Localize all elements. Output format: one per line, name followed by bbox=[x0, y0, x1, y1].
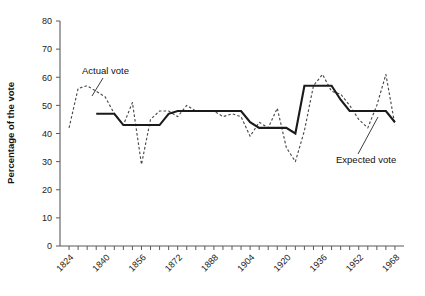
x-tick-label: 1856 bbox=[127, 252, 148, 273]
y-tick-marks bbox=[56, 21, 60, 246]
x-tick-label: 1840 bbox=[90, 252, 111, 273]
y-tick-label: 0 bbox=[47, 241, 52, 251]
y-tick-label: 40 bbox=[42, 129, 52, 139]
y-tick-label: 30 bbox=[42, 157, 52, 167]
actual-vote-leader-line bbox=[92, 78, 103, 96]
actual-vote-label: Actual vote bbox=[82, 65, 129, 76]
y-tick-label: 10 bbox=[42, 213, 52, 223]
x-tick-label: 1824 bbox=[54, 252, 75, 273]
y-tick-label: 20 bbox=[42, 185, 52, 195]
x-tick-label: 1920 bbox=[271, 252, 292, 273]
x-axis-group: 1824184018561872188819041920193619521968 bbox=[54, 246, 404, 274]
x-tick-label: 1872 bbox=[163, 252, 184, 273]
x-tick-label: 1952 bbox=[344, 252, 365, 273]
expected-vote-label: Expected vote bbox=[336, 154, 396, 165]
y-axis-group: 01020304050607080 bbox=[42, 16, 60, 251]
data-series-group bbox=[69, 74, 395, 164]
y-tick-label: 60 bbox=[42, 73, 52, 83]
line-chart: 01020304050607080 1824184018561872188819… bbox=[0, 0, 425, 296]
chart-container: 01020304050607080 1824184018561872188819… bbox=[0, 0, 425, 296]
y-axis-title: Percentage of the vote bbox=[5, 82, 16, 184]
x-tick-label: 1888 bbox=[199, 252, 220, 273]
y-tick-label: 50 bbox=[42, 101, 52, 111]
x-tick-labels: 1824184018561872188819041920193619521968 bbox=[54, 252, 401, 273]
annotation-group: Actual voteExpected vote bbox=[82, 65, 396, 165]
x-tick-label: 1904 bbox=[235, 252, 256, 273]
x-tick-marks bbox=[69, 246, 395, 250]
x-tick-label: 1936 bbox=[308, 252, 329, 273]
x-tick-label: 1968 bbox=[380, 252, 401, 273]
y-tick-label: 80 bbox=[42, 16, 52, 26]
y-tick-label: 70 bbox=[42, 44, 52, 54]
expected-vote-leader-line bbox=[358, 117, 378, 154]
y-tick-labels: 01020304050607080 bbox=[42, 16, 52, 251]
